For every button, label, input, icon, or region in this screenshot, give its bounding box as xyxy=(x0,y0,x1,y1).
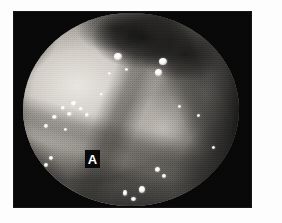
specular-highlight xyxy=(100,93,103,96)
endoscope-field-of-view xyxy=(23,13,239,206)
bottom-shadow-layer xyxy=(23,13,239,206)
dark-lumen-layer xyxy=(23,13,239,206)
film-grain-layer xyxy=(23,13,239,206)
specular-highlight xyxy=(139,186,145,193)
fold-crease-layer xyxy=(23,13,239,206)
specular-highlight xyxy=(67,112,72,116)
specular-highlight xyxy=(49,156,53,160)
right-shadow-layer xyxy=(23,13,239,206)
specular-highlight xyxy=(155,167,160,172)
endoscopy-photo-plate: A xyxy=(13,11,252,208)
specular-highlight xyxy=(85,113,89,117)
specular-highlight xyxy=(79,107,83,111)
specular-highlight xyxy=(64,128,67,131)
specular-highlight xyxy=(44,124,48,128)
specular-highlight xyxy=(114,53,122,60)
mucosal-fold-layer xyxy=(23,13,239,206)
specular-highlight xyxy=(44,163,48,167)
specular-highlight xyxy=(61,106,65,110)
specular-highlight xyxy=(71,101,77,106)
specular-highlight xyxy=(52,115,57,119)
specular-highlight xyxy=(159,58,167,65)
specular-highlight xyxy=(131,197,136,201)
specular-highlight xyxy=(125,68,128,71)
specular-highlight xyxy=(212,146,215,149)
specular-highlight xyxy=(155,69,162,76)
specular-highlight xyxy=(162,174,166,178)
panel-label-a: A xyxy=(85,150,100,168)
specular-highlight xyxy=(108,72,111,75)
figure-canvas: A xyxy=(0,0,282,223)
vignette-layer xyxy=(23,13,239,206)
specular-highlight xyxy=(178,105,181,108)
specular-highlight xyxy=(197,114,200,117)
mucosa-illumination-layer xyxy=(23,13,239,206)
specular-highlight xyxy=(123,190,127,196)
